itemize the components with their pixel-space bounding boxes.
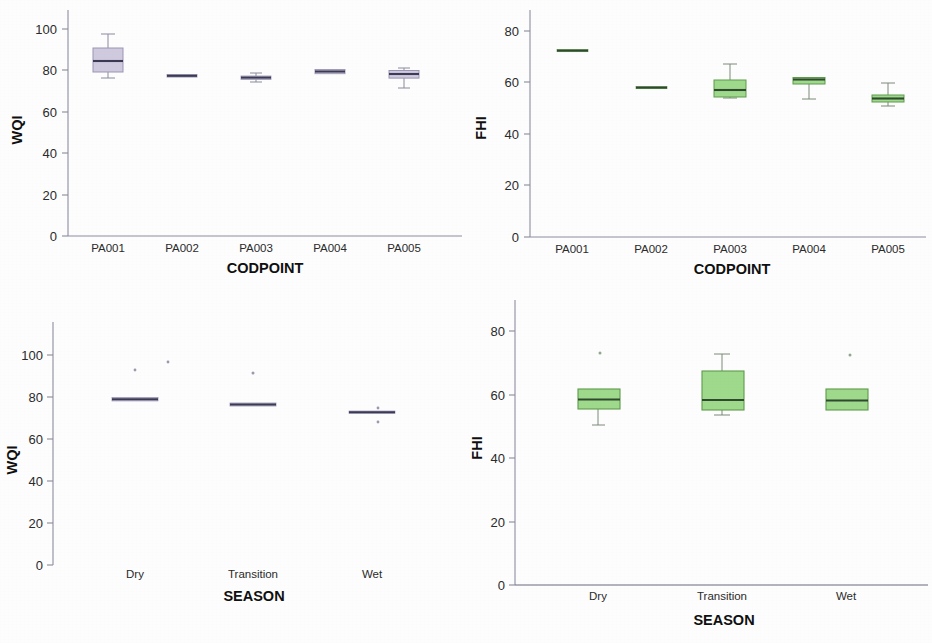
y-tick-label: 40	[491, 451, 505, 466]
x-axis-title: SEASON	[223, 588, 284, 604]
boxplot-PA004	[315, 70, 345, 74]
y-tick-label: 60	[43, 105, 57, 120]
y-tick-label: 40	[505, 127, 519, 142]
y-tick-label: 20	[505, 178, 519, 193]
x-tick-label: PA005	[871, 243, 905, 255]
plot-fhi-season: 80 60 40 20 0 FHI	[466, 300, 932, 643]
boxplot-PA002	[636, 87, 667, 89]
x-tick-label: PA003	[239, 242, 273, 254]
x-tick-label: PA002	[634, 243, 668, 255]
panel-wqi-codpoint: 100 80 60 40 20 0 WQI	[0, 0, 470, 290]
y-axis-ticks	[62, 29, 68, 236]
boxplot-Wet	[826, 354, 868, 411]
panel-wqi-season: 100 80 60 40 20 0 WQI	[0, 300, 470, 643]
plot-wqi-codpoint: 100 80 60 40 20 0 WQI	[0, 0, 470, 290]
y-tick-label: 60	[505, 75, 519, 90]
y-axis-title: FHI	[473, 116, 489, 139]
boxplot-PA005	[389, 68, 419, 88]
y-tick-label: 20	[29, 516, 43, 531]
boxplot-PA002	[167, 75, 197, 78]
boxplot-PA001	[557, 50, 588, 52]
x-tick-label: Transition	[697, 590, 747, 602]
panel-fhi-season: 80 60 40 20 0 FHI	[466, 300, 932, 643]
y-tick-label: 80	[43, 63, 57, 78]
boxplot-Dry	[112, 361, 169, 401]
y-axis-ticks	[509, 331, 515, 585]
boxplot-PA005	[872, 83, 904, 106]
y-tick-label: 60	[491, 388, 505, 403]
x-tick-label: Wet	[836, 590, 857, 602]
y-tick-label: 80	[491, 324, 505, 339]
y-axis-title: WQI	[4, 446, 20, 475]
boxplot-PA003	[241, 73, 271, 82]
y-tick-label: 100	[21, 348, 43, 363]
y-tick-label: 100	[35, 22, 57, 37]
y-tick-label: 40	[29, 474, 43, 489]
x-tick-label: PA005	[387, 242, 421, 254]
y-tick-label: 60	[29, 432, 43, 447]
y-tick-label: 0	[36, 558, 43, 573]
boxplot-Transition	[230, 372, 276, 407]
y-tick-label: 0	[50, 229, 57, 244]
outlier-point	[134, 369, 137, 372]
boxplot-Transition	[702, 354, 744, 415]
outlier-point	[377, 421, 380, 424]
x-tick-label: PA001	[91, 242, 125, 254]
outlier-point	[167, 361, 170, 364]
x-axis-title: CODPOINT	[694, 261, 771, 277]
y-tick-label: 20	[491, 515, 505, 530]
boxplot-PA003	[714, 64, 746, 98]
x-tick-label: PA003	[713, 243, 747, 255]
plot-fhi-codpoint: 80 60 40 20 0 FHI	[466, 0, 932, 290]
boxplot-PA004	[793, 78, 825, 100]
y-tick-label: 80	[505, 24, 519, 39]
figure-canvas: 100 80 60 40 20 0 WQI	[0, 0, 932, 643]
y-tick-label: 80	[29, 390, 43, 405]
y-axis-ticks	[524, 31, 530, 237]
y-tick-label: 20	[43, 188, 57, 203]
y-tick-label: 0	[498, 578, 505, 593]
boxplot-Wet	[349, 407, 395, 424]
x-tick-label: PA004	[313, 242, 347, 254]
boxplot-PA001	[93, 34, 123, 78]
x-tick-label: Dry	[589, 590, 607, 602]
y-axis-title: FHI	[469, 436, 485, 459]
outlier-point	[849, 354, 852, 357]
plot-wqi-season: 100 80 60 40 20 0 WQI	[0, 300, 470, 643]
x-axis-title: SEASON	[693, 612, 754, 628]
x-tick-label: Transition	[228, 568, 278, 580]
panel-fhi-codpoint: 80 60 40 20 0 FHI	[466, 0, 932, 290]
y-axis-ticks	[47, 355, 53, 565]
outlier-point	[377, 407, 380, 410]
x-tick-label: PA001	[555, 243, 589, 255]
x-tick-label: PA002	[165, 242, 199, 254]
y-tick-label: 40	[43, 146, 57, 161]
y-tick-label: 0	[512, 230, 519, 245]
x-tick-label: PA004	[792, 243, 826, 255]
x-axis-title: CODPOINT	[227, 260, 304, 276]
outlier-point	[599, 352, 602, 355]
x-tick-label: Wet	[362, 568, 383, 580]
y-axis-title: WQI	[9, 116, 25, 145]
boxplot-Dry	[578, 352, 620, 426]
x-tick-label: Dry	[126, 568, 144, 580]
outlier-point	[252, 372, 255, 375]
